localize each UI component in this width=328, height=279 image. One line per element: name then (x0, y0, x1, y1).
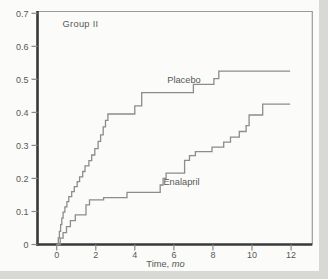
y-tick-label: 0.1 (16, 207, 29, 217)
y-tick-label: 0.6 (16, 42, 29, 52)
x-tick-label: 0 (54, 250, 59, 260)
x-tick-label: 2 (93, 250, 98, 260)
y-tick-label: 0.4 (16, 108, 29, 118)
y-tick-label: 0.2 (16, 174, 29, 184)
plot-frame (38, 12, 313, 245)
x-tick-label: 8 (210, 250, 215, 260)
survival-step-chart: 0.70.60.50.40.30.20.10024681012Time, moP… (0, 0, 328, 279)
y-tick-label: 0.7 (16, 9, 29, 19)
x-tick-label: 12 (286, 250, 296, 260)
y-tick-label: 0.5 (16, 75, 29, 85)
x-tick-label: 4 (132, 250, 137, 260)
enalapril-curve (57, 104, 290, 244)
placebo-curve-label: Placebo (167, 75, 201, 85)
enalapril-curve-label: Enalapril (163, 177, 199, 187)
y-tick-label: 0.3 (16, 141, 29, 151)
y-tick-label: 0 (23, 240, 28, 250)
x-tick-label: 10 (247, 250, 257, 260)
survival-chart-figure: 0.70.60.50.40.30.20.10024681012Time, moP… (0, 0, 328, 279)
placebo-curve (57, 71, 290, 244)
group-annotation: Group II (63, 19, 99, 29)
x-axis-title: Time, mo (146, 259, 184, 269)
